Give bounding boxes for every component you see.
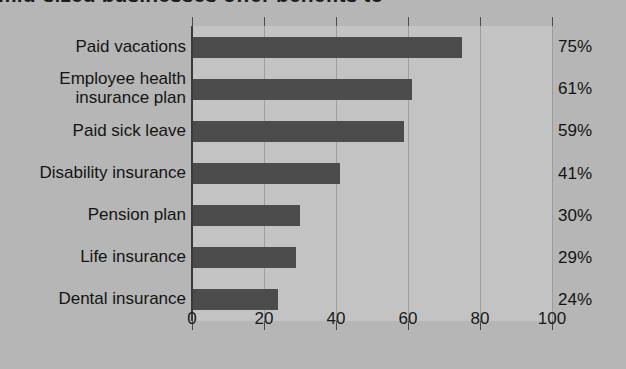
- bar: [192, 205, 300, 226]
- value-label: 59%: [558, 121, 620, 141]
- category-label: Dental insurance: [0, 289, 186, 308]
- category-label: Paid sick leave: [0, 121, 186, 140]
- value-label: 24%: [558, 290, 620, 310]
- bar: [192, 121, 404, 142]
- value-label: 29%: [558, 248, 620, 268]
- value-label: 41%: [558, 164, 620, 184]
- x-axis-tick-label: 60: [399, 309, 418, 329]
- axis-tick-top: [192, 17, 193, 26]
- value-label: 75%: [558, 37, 620, 57]
- category-label: Disability insurance: [0, 163, 186, 182]
- category-label: Paid vacations: [0, 37, 186, 56]
- y-axis-line: [191, 26, 193, 321]
- bar: [192, 163, 340, 184]
- gridline: [408, 26, 409, 321]
- x-axis-tick-label: 0: [187, 309, 196, 329]
- axis-tick-top: [552, 17, 553, 26]
- bar: [192, 247, 296, 268]
- chart-title-cropped: mid-sized businesses offer benefits to: [0, 0, 626, 16]
- value-label: 30%: [558, 206, 620, 226]
- axis-tick-top: [408, 17, 409, 26]
- plot-area: [192, 26, 552, 321]
- category-label: Employee health insurance plan: [0, 69, 186, 107]
- axis-tick-top: [336, 17, 337, 26]
- axis-tick-top: [264, 17, 265, 26]
- x-axis-tick-label: 40: [327, 309, 346, 329]
- x-axis-tick-label: 80: [471, 309, 490, 329]
- gridline: [480, 26, 481, 321]
- axis-tick-top: [480, 17, 481, 26]
- bar: [192, 79, 412, 100]
- chart-figure: mid-sized businesses offer benefits to 0…: [0, 0, 626, 369]
- value-label: 61%: [558, 79, 620, 99]
- x-axis-tick-label: 100: [538, 309, 566, 329]
- bar: [192, 289, 278, 310]
- chart-title-text: mid-sized businesses offer benefits to: [0, 0, 383, 7]
- gridline: [552, 26, 553, 321]
- category-label: Life insurance: [0, 247, 186, 266]
- x-axis-tick-label: 20: [255, 309, 274, 329]
- bar: [192, 37, 462, 58]
- category-label: Pension plan: [0, 205, 186, 224]
